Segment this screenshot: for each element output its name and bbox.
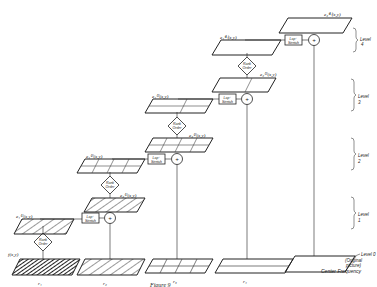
svg-text:+: +	[245, 96, 249, 102]
column-label-r1: r₁	[38, 281, 42, 286]
rank-order-block-1: Rank Order	[34, 233, 52, 251]
svg-text:Order: Order	[106, 185, 116, 189]
svg-text:Stretch: Stretch	[151, 160, 162, 164]
svg-text:1: 1	[358, 218, 361, 223]
sum-node-2: +	[172, 154, 183, 165]
level-4-bracket: Level 4	[353, 28, 372, 52]
svg-text:Stretch: Stretch	[288, 41, 299, 45]
svg-text:Stretch: Stretch	[222, 100, 233, 104]
plane-e1-level4	[212, 40, 281, 55]
lap-stretch-block-1: Lap⁺ Stretch	[82, 213, 99, 223]
f-label: f(x,y)	[8, 252, 19, 258]
svg-text:Level: Level	[358, 212, 370, 217]
e2-level3-label: e₂⁽³⁾(x,y)	[260, 72, 277, 78]
plane-r2-base	[77, 259, 145, 275]
plane-e1-level3	[145, 99, 213, 113]
sum-node-4: +	[309, 35, 320, 46]
lap-stretch-block-4: Lap⁺ Stretch	[285, 35, 302, 45]
e2-level4-label: e₂⁽⁴⁾(x,y)	[324, 12, 341, 18]
sum-node-3: +	[242, 94, 253, 105]
plane-e2-level3	[212, 78, 276, 92]
svg-text:4: 4	[361, 42, 364, 47]
plane-e2-level2	[145, 138, 213, 152]
level0-label: Level 0	[361, 252, 376, 257]
svg-text:2: 2	[357, 159, 361, 164]
rank-order-block-2: Rank Order	[101, 176, 119, 194]
column-label-r4: r₄	[243, 279, 247, 284]
sum-node-1: +	[105, 213, 116, 224]
level-1-bracket: Level 1	[351, 197, 370, 229]
level-2-bracket: Level 2	[351, 138, 370, 170]
svg-text:Stretch: Stretch	[85, 219, 96, 223]
svg-text:Order: Order	[243, 66, 253, 70]
svg-text:Level: Level	[358, 94, 370, 99]
plane-e1-level2	[77, 159, 145, 173]
svg-text:+: +	[108, 215, 112, 221]
plane-e2-level1	[84, 198, 145, 212]
plane-r4-base	[215, 259, 293, 273]
svg-text:3: 3	[358, 100, 361, 105]
figure-caption: Figure 9	[149, 282, 171, 287]
plane-r3-base	[145, 259, 213, 273]
center-frequency-label: Center Frequency	[321, 268, 362, 274]
svg-text:+: +	[175, 156, 179, 162]
column-label-r2: r₂	[103, 281, 107, 286]
lap-stretch-block-2: Lap⁺ Stretch	[148, 154, 165, 164]
rank-order-block-4: Rank Order	[238, 57, 256, 75]
level-3-bracket: Level 3	[351, 79, 370, 111]
rank-order-block-3: Rank Order	[168, 117, 186, 135]
lap-stretch-block-3: Lap⁺ Stretch	[219, 94, 236, 104]
svg-text:Level: Level	[358, 153, 370, 158]
svg-text:Order: Order	[173, 126, 183, 130]
plane-e1-level1	[14, 219, 74, 234]
column-label-r3: r₃	[173, 279, 177, 284]
plane-r1-base	[12, 259, 80, 275]
plane-e2-level4	[279, 18, 352, 33]
svg-text:Order: Order	[39, 242, 49, 246]
svg-text:+: +	[312, 37, 316, 43]
pyramid-diagram: r₁ r₂ r₃ r₄ Level 0 (Original picture) C…	[0, 0, 377, 287]
